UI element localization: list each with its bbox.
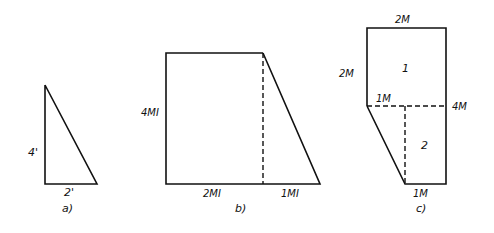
triangle-shape [45, 85, 97, 184]
region-1-label: 1 [402, 62, 409, 75]
trapezoid-shape [166, 53, 320, 184]
top-label-c: 2M [395, 14, 410, 25]
diagram-canvas: 4' 2' a) 4MI 2MI 1MI b) 2M 2M 1M 4M 1M 1… [0, 0, 494, 233]
right-label-c: 4M [452, 101, 467, 112]
height-label-b: 4MI [141, 107, 159, 118]
right-base-label-b: 1MI [281, 188, 299, 199]
base-label-a: 2' [64, 186, 74, 199]
figure-c: 2M 2M 1M 4M 1M 1 2 c) [339, 14, 467, 215]
mid-label-c: 1M [376, 93, 391, 104]
left-label-c: 2M [339, 68, 354, 79]
figure-b: 4MI 2MI 1MI b) [141, 53, 320, 215]
figure-a: 4' 2' a) [28, 85, 97, 215]
caption-c: c) [416, 202, 426, 215]
caption-a: a) [62, 202, 73, 215]
caption-b: b) [235, 202, 246, 215]
height-label-a: 4' [28, 146, 38, 159]
region-2-label: 2 [421, 139, 428, 152]
bottom-label-c: 1M [413, 188, 428, 199]
left-base-label-b: 2MI [203, 188, 221, 199]
